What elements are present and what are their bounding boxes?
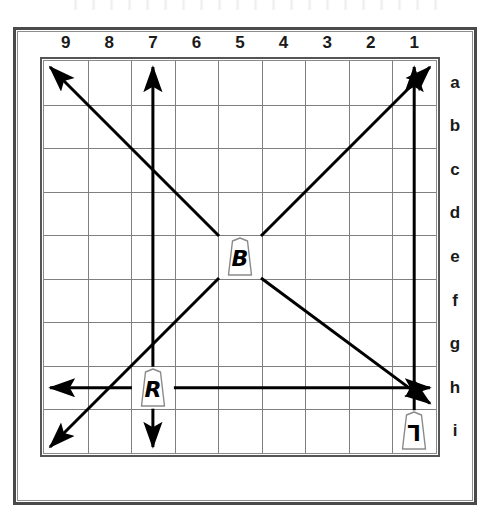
grid-line-horizontal bbox=[44, 148, 436, 149]
column-label-4: 4 bbox=[262, 33, 306, 53]
row-label-e: e bbox=[444, 235, 466, 279]
column-label-3: 3 bbox=[305, 33, 349, 53]
piece-label-rook: R bbox=[133, 367, 173, 408]
scan-artifact bbox=[60, 0, 440, 10]
grid-line-horizontal bbox=[44, 366, 436, 367]
row-label-a: a bbox=[444, 61, 466, 105]
column-label-5: 5 bbox=[218, 33, 262, 53]
grid-line-vertical bbox=[175, 61, 176, 453]
grid-line-vertical bbox=[392, 61, 393, 453]
column-label-8: 8 bbox=[87, 33, 131, 53]
column-label-9: 9 bbox=[44, 33, 88, 53]
row-label-f: f bbox=[444, 279, 466, 323]
column-label-1: 1 bbox=[392, 33, 436, 53]
piece-lance[interactable]: L bbox=[394, 410, 434, 451]
grid-line-horizontal bbox=[44, 279, 436, 280]
grid-line-horizontal bbox=[44, 105, 436, 106]
grid-line-vertical bbox=[305, 61, 306, 453]
piece-rook[interactable]: R bbox=[133, 367, 173, 408]
piece-label-lance: L bbox=[394, 410, 434, 451]
row-label-d: d bbox=[444, 191, 466, 235]
grid-line-vertical bbox=[262, 61, 263, 453]
grid-line-horizontal bbox=[44, 192, 436, 193]
grid-line-vertical bbox=[218, 61, 219, 453]
row-label-i: i bbox=[444, 409, 466, 453]
piece-label-bishop: B bbox=[220, 236, 260, 277]
row-label-h: h bbox=[444, 366, 466, 410]
column-label-6: 6 bbox=[174, 33, 218, 53]
column-label-2: 2 bbox=[349, 33, 393, 53]
row-label-g: g bbox=[444, 322, 466, 366]
row-label-c: c bbox=[444, 148, 466, 192]
shogi-diagram: 987654321 abcdefghi BRL bbox=[0, 0, 491, 518]
grid-line-horizontal bbox=[44, 409, 436, 410]
grid-line-horizontal bbox=[44, 322, 436, 323]
column-label-7: 7 bbox=[131, 33, 175, 53]
row-label-b: b bbox=[444, 104, 466, 148]
piece-bishop[interactable]: B bbox=[220, 236, 260, 277]
grid-line-vertical bbox=[131, 61, 132, 453]
grid-line-vertical bbox=[349, 61, 350, 453]
grid-line-vertical bbox=[88, 61, 89, 453]
